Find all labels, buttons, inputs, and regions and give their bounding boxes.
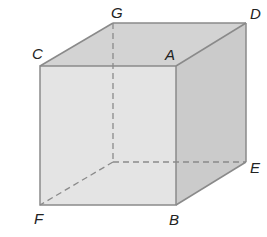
front-face [40, 66, 176, 205]
cube-diagram: G D C A E F B [0, 0, 267, 237]
vertex-label-g: G [111, 4, 123, 21]
vertex-label-c: C [32, 45, 43, 62]
vertex-label-d: D [250, 5, 261, 22]
vertex-label-a: A [164, 46, 175, 63]
vertex-label-f: F [34, 210, 44, 227]
vertex-label-b: B [169, 211, 179, 228]
vertex-label-e: E [250, 159, 261, 176]
